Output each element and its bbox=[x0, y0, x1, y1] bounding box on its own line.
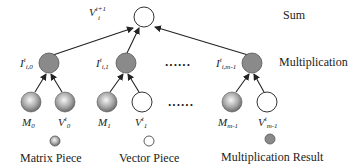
legend-matrix-icon bbox=[50, 136, 60, 146]
mult-node-1 bbox=[116, 53, 136, 73]
sum-node bbox=[134, 7, 154, 27]
ellipsis-leaves: ...... bbox=[168, 95, 194, 109]
legend-result-label: Multiplication Result bbox=[221, 150, 324, 164]
mult-node-2 bbox=[242, 53, 262, 73]
ellipsis-mult: ...... bbox=[165, 55, 191, 69]
leaf-node-m1 bbox=[97, 92, 117, 112]
level-label-sum: Sum bbox=[283, 8, 306, 22]
legend: Matrix Piece Vector Piece Multiplication… bbox=[20, 134, 324, 165]
legend-vector-label: Vector Piece bbox=[119, 151, 179, 165]
leaf-node-v0 bbox=[55, 92, 75, 112]
legend-matrix-label: Matrix Piece bbox=[20, 151, 82, 165]
tree-diagram: Vt+1i Sum Multiplication Iti,0 Iti,1 ...… bbox=[0, 0, 359, 167]
leaf-label-vm1: Vtm-1 bbox=[258, 115, 278, 130]
leaf-label-v0: Vt0 bbox=[58, 115, 71, 130]
edges-to-mult bbox=[35, 74, 264, 92]
leaf-label-m1: M1 bbox=[97, 116, 111, 130]
legend-vector-icon bbox=[144, 136, 154, 146]
mult-node-1-label: Iti,1 bbox=[95, 56, 109, 71]
edges-to-sum bbox=[53, 27, 248, 55]
leaf-node-m0 bbox=[21, 92, 41, 112]
mult-node-0 bbox=[39, 53, 59, 73]
leaf-node-v1 bbox=[132, 92, 152, 112]
mult-node-2-label: Iti,m-1 bbox=[215, 56, 236, 71]
leaf-label-mm1: Mm-1 bbox=[217, 116, 238, 130]
leaf-node-vm1 bbox=[257, 92, 277, 112]
level-label-multiplication: Multiplication bbox=[279, 55, 348, 69]
legend-result-icon bbox=[265, 134, 275, 144]
leaf-label-v1: Vt1 bbox=[135, 115, 147, 130]
leaf-label-m0: M0 bbox=[21, 116, 35, 130]
mult-node-0-label: Iti,0 bbox=[19, 56, 33, 71]
sum-node-label: Vt+1i bbox=[89, 5, 106, 22]
leaf-node-mm1 bbox=[222, 92, 242, 112]
